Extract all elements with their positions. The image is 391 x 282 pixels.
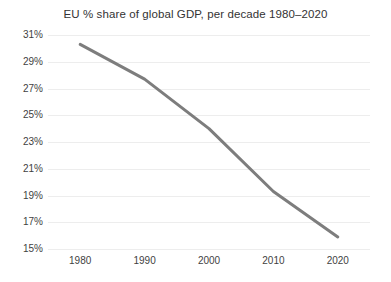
chart-container: EU % share of global GDP, per decade 198… [0, 0, 391, 282]
data-series-svg [0, 0, 391, 282]
plot-area: 31%29%27%25%23%21%19%17%15% 198019902000… [0, 0, 391, 282]
line-series-eu-gdp-share [80, 44, 338, 237]
